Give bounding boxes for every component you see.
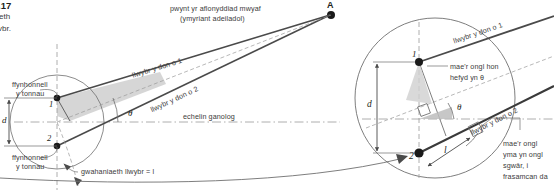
theta-angle-label: θ (128, 109, 133, 118)
magnified-theta-label: θ (457, 103, 462, 112)
right-angle-note-line-4: frasamcan da (503, 172, 548, 181)
central-axis-label: echelin ganolog (183, 112, 235, 121)
right-angle-note-line-1: mae'r ongl (503, 139, 537, 148)
max-disturbance-label-line-2: (ymyriant adeiladol) (180, 14, 245, 23)
figure-number-fragment: .17 (0, 0, 11, 11)
source-1-label-line-1: ffynhonnell (12, 80, 48, 89)
max-disturbance-label-line-1: pwynt yr aflonyddiad mwyaf (170, 4, 261, 13)
magnifier-connector-curve (0, 158, 404, 182)
diagram-vector-layer (0, 0, 554, 190)
magnified-wave-path-1 (419, 16, 554, 62)
right-angle-note-line-3: sgwâr, i (503, 161, 528, 170)
magnified-separation-label-d: d (367, 100, 372, 109)
wave-path-2-line (57, 15, 330, 146)
magnified-angle-note-line-1: mae'r ongl hon (450, 62, 499, 71)
magnified-source-1-marker (415, 58, 423, 66)
magnified-path-length-label-l: l (444, 146, 447, 155)
magnified-angle-shading (406, 62, 432, 104)
margin-text-line-2: vbr. (0, 24, 11, 33)
magnified-source-1-number: 1 (412, 50, 417, 59)
margin-text-line-1: eth (0, 12, 10, 21)
separation-label-d: d (2, 116, 7, 125)
source-2-number: 2 (47, 134, 51, 143)
path-difference-label: gwahaniaeth llwybr = l (81, 167, 154, 176)
magnifier-connector-arrow (396, 154, 408, 164)
magnifier-circle (355, 18, 515, 178)
source-2-label-line-1: ffynhonnell (12, 153, 48, 162)
magnified-l-dimension (428, 138, 470, 166)
figure-canvas: .17 eth vbr. A pwynt yr aflonyddiad mwya… (0, 0, 554, 190)
magnified-source-2-marker (414, 148, 423, 157)
source-1-label-line-2: y tonnau (16, 89, 44, 98)
magnified-angle-note-line-2: hefyd yn θ (450, 73, 484, 82)
point-a-label: A (327, 0, 334, 10)
magnified-source-2-number: 2 (409, 152, 414, 161)
bisector-dashed-line (57, 15, 331, 122)
magnified-theta-shading (419, 107, 452, 119)
right-angle-note-line-2: yma yn ongl (503, 150, 543, 159)
path-difference-shading (57, 72, 166, 121)
source-2-label-line-2: y tonnau (16, 162, 44, 171)
lower-dashed-arc (57, 122, 78, 186)
source-1-number: 1 (49, 100, 53, 109)
